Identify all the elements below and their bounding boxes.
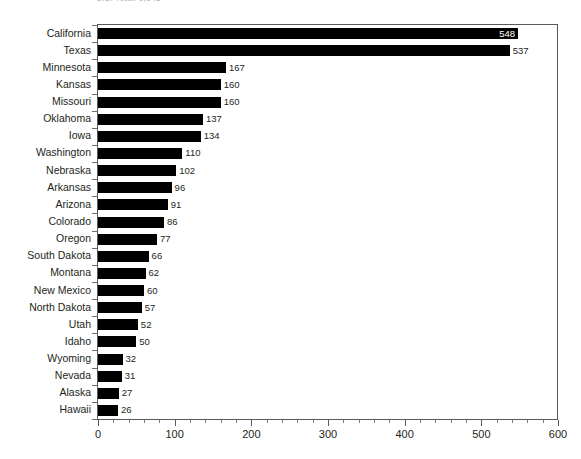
- category-tick: [92, 42, 97, 43]
- value-axis-tick: [481, 420, 482, 426]
- bar-value-label: 57: [142, 302, 156, 313]
- category-tick: [92, 350, 97, 351]
- category-tick: [92, 385, 97, 386]
- category-label: Oregon: [0, 233, 91, 244]
- category-label: South Dakota: [0, 250, 91, 261]
- bar: [98, 45, 510, 56]
- value-axis-tick-label: 500: [472, 428, 490, 441]
- bar-value-label: 26: [118, 404, 132, 415]
- bar: [98, 371, 122, 382]
- category-label: Oklahoma: [0, 113, 91, 124]
- category-label: Minnesota: [0, 62, 91, 73]
- value-axis-minor-tick: [466, 420, 467, 423]
- category-label: North Dakota: [0, 302, 91, 313]
- category-tick: [92, 299, 97, 300]
- bar: [98, 97, 221, 108]
- bar: [98, 285, 144, 296]
- category-axis-labels: CaliforniaTexasMinnesotaKansasMissouriOk…: [0, 25, 91, 419]
- value-axis-minor-tick: [190, 420, 191, 423]
- bar-value-label: 27: [119, 387, 133, 398]
- category-tick: [92, 333, 97, 334]
- value-axis-tick: [98, 420, 99, 426]
- bar-chart: U.S. Total: 3,341 CaliforniaTexasMinneso…: [0, 0, 581, 459]
- bar: [98, 148, 182, 159]
- bar: [98, 354, 123, 365]
- bar-value-label: 62: [146, 267, 160, 278]
- bar: [98, 268, 146, 279]
- bar: [98, 79, 221, 90]
- category-tick: [92, 25, 97, 26]
- bar-value-label: 50: [136, 336, 150, 347]
- value-axis-tick: [558, 420, 559, 426]
- bar: [98, 28, 518, 39]
- value-axis-minor-tick: [512, 420, 513, 423]
- value-axis-minor-tick: [113, 420, 114, 423]
- bar: [98, 251, 149, 262]
- value-axis-tick-label: 0: [95, 428, 101, 441]
- category-tick: [92, 128, 97, 129]
- value-axis-minor-tick: [497, 420, 498, 423]
- value-axis-minor-tick: [297, 420, 298, 423]
- category-label: Washington: [0, 147, 91, 158]
- bar: [98, 114, 203, 125]
- value-axis-minor-tick: [205, 420, 206, 423]
- bar-value-label: 134: [201, 130, 220, 141]
- bar: [98, 302, 142, 313]
- category-label: Arkansas: [0, 182, 91, 193]
- category-label: Missouri: [0, 96, 91, 107]
- bar-value-label: 77: [157, 233, 171, 244]
- bar-value-label: 167: [226, 62, 245, 73]
- chart-title: U.S. Total: 3,341: [96, 0, 246, 5]
- category-label: Kansas: [0, 79, 91, 90]
- bar: [98, 62, 226, 73]
- bar: [98, 234, 157, 245]
- value-axis-minor-tick: [236, 420, 237, 423]
- category-tick: [92, 368, 97, 369]
- bar-value-label: 32: [123, 353, 137, 364]
- bar-value-label: 96: [172, 182, 186, 193]
- value-axis: 0100200300400500600: [97, 419, 558, 459]
- value-axis-tick-label: 600: [549, 428, 567, 441]
- value-axis-minor-tick: [359, 420, 360, 423]
- category-tick: [92, 213, 97, 214]
- bar-value-label: 66: [149, 250, 163, 261]
- value-axis-tick-label: 400: [395, 428, 413, 441]
- bar-value-label: 548: [496, 28, 515, 39]
- value-axis-minor-tick: [389, 420, 390, 423]
- bar: [98, 182, 172, 193]
- value-axis-minor-tick: [144, 420, 145, 423]
- bar: [98, 199, 168, 210]
- category-label: Colorado: [0, 216, 91, 227]
- value-axis-minor-tick: [543, 420, 544, 423]
- value-axis-minor-tick: [343, 420, 344, 423]
- bar-value-label: 537: [510, 45, 529, 56]
- bar: [98, 388, 119, 399]
- category-tick: [92, 145, 97, 146]
- category-label: California: [0, 28, 91, 39]
- category-label: Nebraska: [0, 165, 91, 176]
- category-tick: [92, 231, 97, 232]
- category-label: Hawaii: [0, 404, 91, 415]
- bar-value-label: 102: [176, 165, 195, 176]
- bar-value-label: 110: [182, 147, 200, 158]
- category-label: Idaho: [0, 336, 91, 347]
- category-label: New Mexico: [0, 285, 91, 296]
- category-tick: [92, 162, 97, 163]
- category-label: Nevada: [0, 370, 91, 381]
- bar-value-label: 91: [168, 199, 182, 210]
- value-axis-tick: [328, 420, 329, 426]
- category-label: Utah: [0, 319, 91, 330]
- value-axis-minor-tick: [159, 420, 160, 423]
- bar-series: 5485371671601601371341101029691867766626…: [98, 25, 558, 419]
- bar: [98, 217, 164, 228]
- value-axis-minor-tick: [374, 420, 375, 423]
- bar-value-label: 160: [221, 79, 240, 90]
- value-axis-minor-tick: [435, 420, 436, 423]
- value-axis-minor-tick: [420, 420, 421, 423]
- value-axis-minor-tick: [221, 420, 222, 423]
- category-label: Iowa: [0, 130, 91, 141]
- value-axis-minor-tick: [129, 420, 130, 423]
- category-tick: [92, 94, 97, 95]
- value-axis-tick-label: 300: [319, 428, 337, 441]
- bar: [98, 165, 176, 176]
